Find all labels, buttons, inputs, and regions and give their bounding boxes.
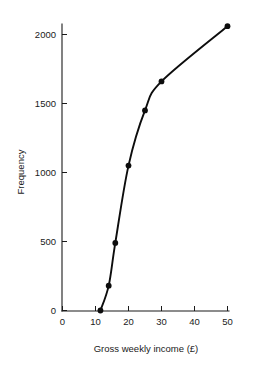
y-tick-label-0: 0 xyxy=(51,305,56,316)
data-point xyxy=(159,79,165,85)
x-axis-title: Gross weekly income (£) xyxy=(94,343,199,354)
data-point xyxy=(142,108,148,114)
data-point xyxy=(126,163,132,169)
data-point xyxy=(112,240,118,246)
x-tick-label-40: 40 xyxy=(189,316,200,327)
data-point xyxy=(225,23,231,29)
series-line xyxy=(100,26,227,310)
x-tick-label-30: 30 xyxy=(156,316,167,327)
y-tick-label-1500: 1500 xyxy=(35,98,56,109)
x-tick-label-10: 10 xyxy=(90,316,101,327)
series-markers-group xyxy=(98,23,231,313)
y-axis-title: Frequency xyxy=(15,149,26,194)
x-tick-label-20: 20 xyxy=(123,316,134,327)
y-tick-label-1000: 1000 xyxy=(35,167,56,178)
chart-plot-area: 0 500 1000 1500 2000 0 10 20 30 40 50 Gr… xyxy=(0,0,259,373)
data-point xyxy=(98,308,104,314)
series-cumulative-frequency xyxy=(98,23,231,313)
data-point xyxy=(106,283,112,289)
x-tick-label-50: 50 xyxy=(222,316,233,327)
y-tick-label-2000: 2000 xyxy=(35,29,56,40)
y-tick-label-500: 500 xyxy=(40,236,56,247)
cumulative-frequency-chart: 0 500 1000 1500 2000 0 10 20 30 40 50 Gr… xyxy=(0,0,259,373)
x-tick-label-0: 0 xyxy=(60,316,65,327)
